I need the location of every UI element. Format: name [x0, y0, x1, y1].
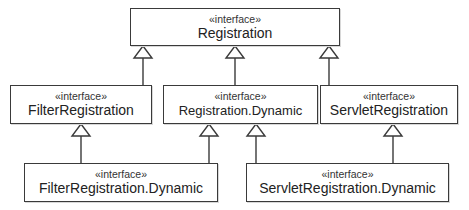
stereotype-label: «interface» [209, 13, 261, 25]
stereotype-label: «interface» [55, 90, 107, 102]
class-servlet-registration-dynamic: «interface» ServletRegistration.Dynamic [246, 163, 449, 202]
stereotype-label: «interface» [363, 90, 415, 102]
edge-registration-dynamic-to-registration [226, 46, 244, 85]
edge-servlet-registration-dynamic-to-registration-dynamic [247, 124, 265, 163]
edge-filter-registration-to-registration [134, 46, 152, 85]
edge-filter-registration-dynamic-to-filter-registration [72, 124, 90, 163]
stereotype-label: «interface» [95, 168, 147, 180]
class-filter-registration: «interface» FilterRegistration [10, 85, 152, 124]
edge-servlet-registration-to-registration [320, 46, 338, 85]
class-name: ServletRegistration.Dynamic [259, 180, 436, 197]
class-registration: «interface» Registration [130, 8, 340, 46]
class-servlet-registration: «interface» ServletRegistration [320, 85, 458, 124]
edge-filter-registration-dynamic-to-registration-dynamic [200, 124, 218, 163]
class-name: Registration.Dynamic [179, 102, 303, 119]
class-filter-registration-dynamic: «interface» FilterRegistration.Dynamic [24, 163, 218, 202]
class-name: FilterRegistration [28, 102, 134, 119]
class-name: Registration [198, 25, 273, 42]
class-registration-dynamic: «interface» Registration.Dynamic [163, 85, 318, 124]
stereotype-label: «interface» [322, 168, 374, 180]
class-name: FilterRegistration.Dynamic [39, 180, 203, 197]
class-name: ServletRegistration [330, 102, 448, 119]
stereotype-label: «interface» [215, 90, 267, 102]
edge-servlet-registration-dynamic-to-servlet-registration [384, 124, 402, 163]
